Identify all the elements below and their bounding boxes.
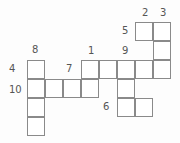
crossword-cell[interactable] — [135, 22, 153, 41]
crossword-cell[interactable] — [135, 98, 153, 117]
clue-number: 9 — [122, 46, 128, 56]
crossword-cell[interactable] — [63, 79, 81, 98]
crossword-cell[interactable] — [45, 79, 63, 98]
crossword-cell[interactable] — [81, 60, 99, 79]
clue-number: 6 — [103, 102, 109, 112]
crossword-cell[interactable] — [153, 22, 171, 41]
crossword-cell[interactable] — [117, 60, 135, 79]
clue-number: 2 — [142, 8, 148, 18]
clue-number: 7 — [66, 64, 72, 74]
clue-number: 1 — [88, 46, 94, 56]
clue-number: 5 — [122, 26, 128, 36]
clue-number: 3 — [160, 8, 166, 18]
crossword-cell[interactable] — [81, 79, 99, 98]
clue-number: 8 — [32, 45, 38, 55]
crossword-cell[interactable] — [27, 79, 45, 98]
crossword-cell[interactable] — [153, 41, 171, 60]
crossword-cell[interactable] — [117, 98, 135, 117]
crossword-cell[interactable] — [27, 60, 45, 79]
crossword-cell[interactable] — [27, 117, 45, 136]
crossword-cell[interactable] — [135, 60, 153, 79]
clue-number: 4 — [9, 64, 15, 74]
crossword-cell[interactable] — [153, 60, 171, 79]
crossword-cell[interactable] — [27, 98, 45, 117]
clue-number: 10 — [9, 85, 22, 95]
crossword-cell[interactable] — [99, 60, 117, 79]
crossword-cell[interactable] — [117, 79, 135, 98]
